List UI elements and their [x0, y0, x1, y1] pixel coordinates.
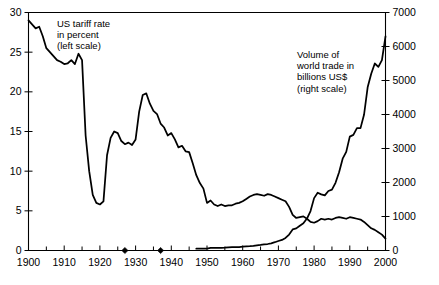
y-right-tick-label-1000: 1000 [393, 210, 417, 222]
diamond-marker-1927 [122, 247, 128, 253]
diamond-marker-1937 [157, 247, 163, 253]
y-right-tick-label-7000: 7000 [393, 6, 417, 18]
y-left-tick-label-10: 10 [10, 165, 22, 177]
y-left-tick-label-30: 30 [10, 6, 22, 18]
y-left-tick-label-0: 0 [16, 244, 22, 256]
x-tick-label-1970: 1970 [267, 256, 291, 268]
x-tick-label-1940: 1940 [160, 256, 184, 268]
tariff-rate-annotation: US tariff rate in percent (left scale) [57, 18, 110, 52]
x-tick-label-1980: 1980 [302, 256, 326, 268]
y-right-tick-label-6000: 6000 [393, 40, 417, 52]
y-right-tick-label-2000: 2000 [393, 176, 417, 188]
y-left-tick-label-20: 20 [10, 85, 22, 97]
y-right-tick-label-0: 0 [393, 244, 399, 256]
y-axis-left-tick-labels: 051015202530 [10, 6, 22, 256]
y-right-tick-label-3000: 3000 [393, 142, 417, 154]
x-tick-label-1910: 1910 [53, 256, 77, 268]
x-tick-label-1930: 1930 [124, 256, 148, 268]
chart-figure: 1900191019201930194019501960197019801990… [0, 0, 439, 285]
x-axis-tick-labels: 1900191019201930194019501960197019801990… [17, 256, 398, 268]
y-right-tick-label-5000: 5000 [393, 74, 417, 86]
y-left-tick-label-15: 15 [10, 125, 22, 137]
x-tick-label-1920: 1920 [88, 256, 112, 268]
series-line-volume-of-world-trade [196, 36, 385, 248]
x-tick-label-1950: 1950 [195, 256, 219, 268]
x-tick-label-1990: 1990 [338, 256, 362, 268]
y-right-tick-label-4000: 4000 [393, 108, 417, 120]
y-axis-right-tick-labels: 01000200030004000500060007000 [393, 6, 417, 256]
x-tick-label-2000: 2000 [374, 256, 398, 268]
x-tick-label-1960: 1960 [231, 256, 255, 268]
y-left-tick-label-25: 25 [10, 46, 22, 58]
world-trade-annotation: Volume of world trade in billions US$ (r… [297, 49, 354, 94]
x-tick-label-1900: 1900 [17, 256, 41, 268]
y-left-tick-label-5: 5 [16, 204, 22, 216]
